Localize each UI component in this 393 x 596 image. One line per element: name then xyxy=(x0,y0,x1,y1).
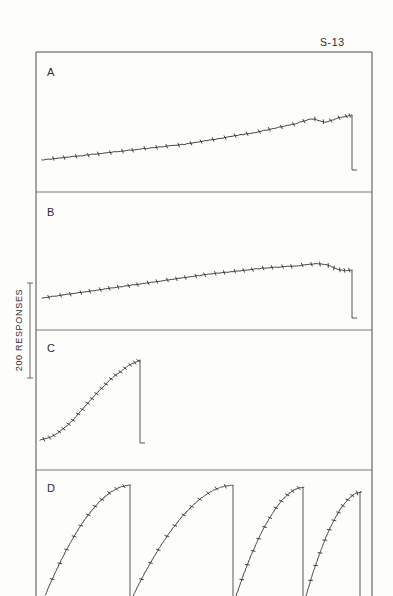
panel-label-a: A xyxy=(47,66,55,78)
y-axis-label: 200 RESPONSES xyxy=(14,289,24,372)
reinforcement-pip xyxy=(340,267,341,272)
cumulative-record-figure: S-13 200 RESPONSES A B C D xyxy=(0,0,393,596)
figure-canvas: S-13 200 RESPONSES A B C D xyxy=(0,0,393,596)
y-axis-scale-group: 200 RESPONSES xyxy=(14,283,33,378)
paper-background xyxy=(0,0,393,596)
panel-label-d: D xyxy=(47,482,55,494)
panel-label-c: C xyxy=(47,342,55,354)
subject-label: S-13 xyxy=(320,36,345,48)
panel-label-b: B xyxy=(47,206,54,218)
